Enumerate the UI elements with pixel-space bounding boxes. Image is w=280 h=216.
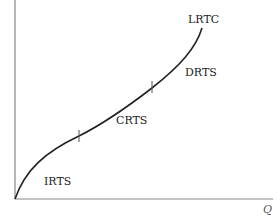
region-label-drts: DRTS — [185, 66, 217, 79]
region-label-crts: CRTS — [116, 114, 147, 127]
region-label-irts: IRTS — [44, 175, 71, 188]
curve-label-lrtc: LRTC — [188, 13, 219, 26]
lrtc-diagram: LRTC DRTS CRTS IRTS Q — [0, 0, 280, 216]
lrtc-curve — [15, 28, 202, 199]
x-axis-label-q: Q — [263, 203, 272, 216]
